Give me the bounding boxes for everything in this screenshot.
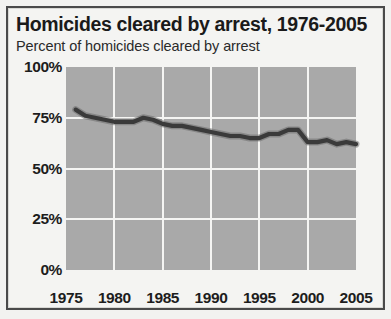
chart-subtitle: Percent of homicides cleared by arrest xyxy=(16,38,260,54)
chart-title: Homicides cleared by arrest, 1976-2005 xyxy=(16,13,367,36)
chart-screenshot: Homicides cleared by arrest, 1976-2005 P… xyxy=(0,0,391,319)
